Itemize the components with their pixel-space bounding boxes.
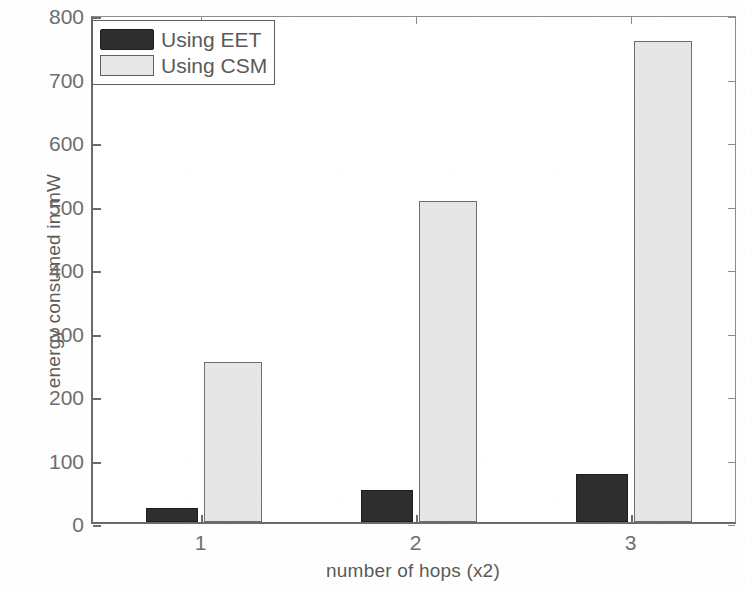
x-tick-mark-top xyxy=(631,17,632,24)
y-tick-label: 200 xyxy=(49,386,84,410)
dark-filled-swatch xyxy=(100,29,154,50)
bar-using-eet-3 xyxy=(576,474,628,522)
bar-using-csm-1 xyxy=(204,362,262,522)
y-tick-mark-right xyxy=(728,398,735,399)
y-tick-label: 700 xyxy=(49,69,84,93)
y-tick-mark-right xyxy=(728,525,735,526)
y-tick-mark xyxy=(93,208,101,210)
y-tick-mark-right xyxy=(728,271,735,272)
bar-using-csm-3 xyxy=(634,41,692,522)
bar-using-csm-2 xyxy=(419,201,477,522)
bar-using-eet-1 xyxy=(146,508,198,522)
y-tick-mark-right xyxy=(728,462,735,463)
y-tick-label: 800 xyxy=(49,5,84,29)
x-axis-title: number of hops (x2) xyxy=(90,560,736,582)
x-tick-mark-top xyxy=(416,17,417,24)
y-tick-mark xyxy=(93,398,101,400)
y-tick-label: 100 xyxy=(49,450,84,474)
y-tick-mark xyxy=(93,271,101,273)
x-tick-label: 1 xyxy=(195,531,207,555)
light-filled-swatch xyxy=(100,55,154,76)
legend-row: Using CSM xyxy=(100,52,267,78)
y-tick-mark xyxy=(93,462,101,464)
bar-chart-figure: energy consumed in mW number of hops (x2… xyxy=(0,0,745,589)
plot-area: 0100200300400500600700800 123 xyxy=(91,16,736,524)
y-tick-mark xyxy=(93,17,101,19)
y-tick-mark xyxy=(93,335,101,337)
x-tick-mark xyxy=(201,515,203,522)
y-tick-mark-right xyxy=(728,208,735,209)
legend-row: Using EET xyxy=(100,26,267,52)
y-tick-label: 600 xyxy=(49,132,84,156)
y-tick-mark xyxy=(93,144,101,146)
y-tick-label: 400 xyxy=(49,259,84,283)
y-tick-mark-right xyxy=(728,81,735,82)
y-tick-mark-right xyxy=(728,17,735,18)
legend-label: Using CSM xyxy=(161,55,267,76)
y-tick-label: 500 xyxy=(49,196,84,220)
bar-using-eet-2 xyxy=(361,490,413,522)
chart-legend: Using EETUsing CSM xyxy=(92,20,275,85)
y-tick-label: 0 xyxy=(72,513,84,537)
y-tick-mark-right xyxy=(728,144,735,145)
x-tick-label: 2 xyxy=(410,531,422,555)
y-tick-mark xyxy=(93,525,101,527)
y-tick-label: 300 xyxy=(49,323,84,347)
x-tick-label: 3 xyxy=(625,531,637,555)
legend-label: Using EET xyxy=(161,29,261,50)
y-tick-mark-right xyxy=(728,335,735,336)
x-tick-mark xyxy=(416,515,418,522)
x-tick-mark xyxy=(631,515,633,522)
